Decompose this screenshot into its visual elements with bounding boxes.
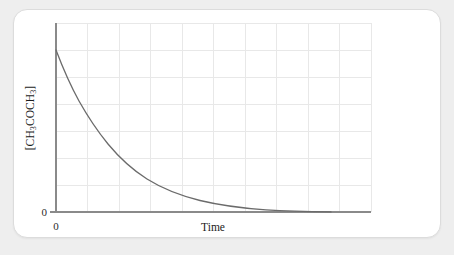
axis-titles: [CH3COCH3] Time xyxy=(24,86,225,233)
y-axis-title: [CH3COCH3] xyxy=(24,86,38,151)
axes xyxy=(50,23,371,212)
figure-card: 0 0 [CH3COCH3] Time xyxy=(13,9,441,238)
grid-lines xyxy=(56,23,371,212)
y-title-close-bracket: ] xyxy=(24,86,36,90)
y-title-coch: COCH xyxy=(24,94,36,126)
exponential-decay-chart: 0 0 [CH3COCH3] Time xyxy=(14,10,440,237)
y-axis-tick-label-zero: 0 xyxy=(42,206,48,218)
x-axis-tick-label-zero: 0 xyxy=(53,220,59,232)
x-axis-title: Time xyxy=(201,221,225,233)
y-title-ch-1: CH xyxy=(24,130,36,146)
